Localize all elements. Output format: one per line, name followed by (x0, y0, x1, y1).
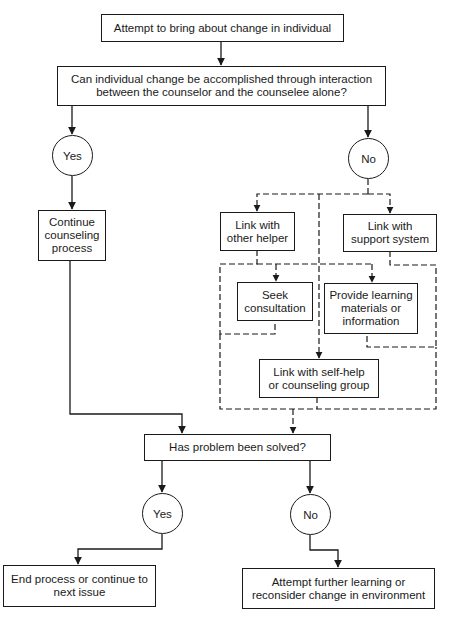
end-line2: next issue (54, 586, 106, 599)
self-help-line2: or counseling group (268, 379, 369, 392)
edge-continue-question2 (70, 260, 182, 433)
self-help-line1: Link with self-help (273, 366, 364, 379)
continue-box: Continue counseling process (38, 210, 106, 261)
yes1-label: Yes (63, 150, 82, 162)
other-helper-line1: Link with (235, 219, 280, 232)
self-help-box: Link with self-help or counseling group (259, 359, 379, 398)
edge-no-otherhelper (257, 194, 368, 211)
consultation-box: Seek consultation (237, 282, 313, 321)
yes-circle-1: Yes (52, 135, 93, 176)
edge-no-supportsystem (368, 194, 390, 213)
further-line2: reconsider change in environment (252, 589, 425, 602)
learning-line1: Provide learning (329, 289, 412, 302)
yes2-label: Yes (153, 508, 172, 520)
question1-line1: Can individual change be accomplished th… (71, 73, 372, 86)
continue-line2: counseling (45, 229, 100, 242)
no-circle-2: No (290, 494, 331, 535)
no1-label: No (361, 153, 376, 165)
start-text: Attempt to bring about change in individ… (114, 22, 331, 35)
question2-text: Has problem been solved? (169, 441, 306, 454)
continue-line3: process (52, 242, 92, 255)
end-box: End process or continue to next issue (3, 565, 156, 607)
further-line1: Attempt further learning or (272, 576, 406, 589)
consultation-line2: consultation (244, 302, 305, 315)
edge-no-further (310, 535, 338, 567)
no-circle-1: No (348, 138, 389, 179)
question1-line2: between the counselor and the counselee … (96, 86, 347, 99)
other-helper-line2: other helper (227, 232, 288, 245)
no2-label: No (303, 509, 318, 521)
further-box: Attempt further learning or reconsider c… (242, 568, 435, 609)
yes-circle-2: Yes (142, 493, 183, 534)
end-line1: End process or continue to (11, 573, 148, 586)
consultation-line1: Seek (262, 289, 288, 302)
start-box: Attempt to bring about change in individ… (101, 14, 344, 42)
learning-line3: information (343, 315, 400, 328)
edge-yes-end (78, 534, 162, 564)
question2-box: Has problem been solved? (144, 434, 331, 461)
learning-line2: materials or (341, 302, 401, 315)
continue-line1: Continue (49, 216, 95, 229)
support-system-line1: Link with (368, 220, 413, 233)
learning-materials-box: Provide learning materials or informatio… (324, 283, 418, 334)
other-helper-box: Link with other helper (220, 212, 295, 251)
support-system-box: Link with support system (343, 214, 437, 252)
question1-box: Can individual change be accomplished th… (57, 66, 386, 106)
support-system-line2: support system (351, 233, 429, 246)
